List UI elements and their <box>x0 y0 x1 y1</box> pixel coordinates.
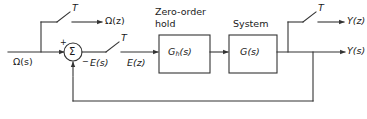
sampler-error-period-label: T <box>121 33 127 44</box>
system-transfer-function: G(s) <box>240 47 260 58</box>
signal-label-omega-s: Ω(s) <box>13 57 33 68</box>
zero-order-hold-caption-line1: Zero-order <box>155 7 206 18</box>
zoh-tf-arg: (s) <box>179 46 191 57</box>
sampler-input-arm <box>57 12 70 22</box>
sampler-input-period-label: T <box>72 3 78 14</box>
signal-label-e-s: E(s) <box>90 58 108 69</box>
system-tf-arg: (s) <box>247 46 259 57</box>
sampler-output-arm <box>303 12 316 22</box>
zero-order-hold-caption-line2: hold <box>155 19 176 30</box>
signal-label-e-z: E(z) <box>127 58 145 69</box>
diagram-canvas <box>0 0 367 119</box>
sampler-error-arm <box>106 42 119 52</box>
block-diagram: Σ + − T T T Ω(z) Ω(s) E(s) E(z) Y(z) Y(s… <box>0 0 367 119</box>
zero-order-hold-transfer-function: Gh(s) <box>168 47 192 59</box>
system-caption-line1: System <box>233 19 268 30</box>
summing-junction-minus-sign: − <box>82 58 89 67</box>
signal-label-omega-z: Ω(z) <box>105 16 125 27</box>
summing-junction-symbol: Σ <box>69 46 75 57</box>
sampler-output-period-label: T <box>318 3 324 14</box>
summing-junction-plus-sign: + <box>60 39 67 48</box>
signal-label-y-s: Y(s) <box>347 46 365 57</box>
signal-label-y-z: Y(z) <box>347 16 365 27</box>
